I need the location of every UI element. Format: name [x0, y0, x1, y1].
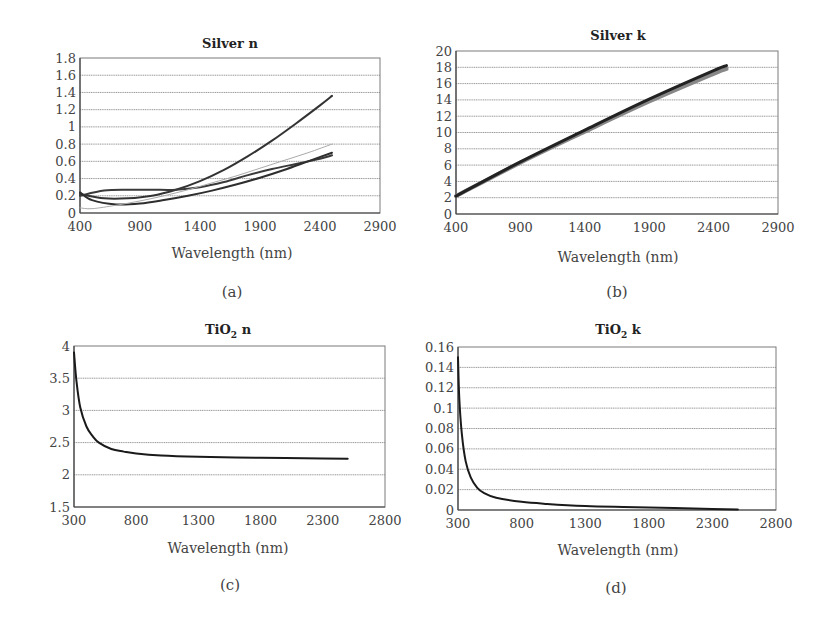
svg-text:0.06: 0.06	[425, 441, 454, 456]
caption-a: (a)	[202, 283, 262, 301]
x-axis-label-b: Wavelength (nm)	[518, 249, 718, 265]
svg-text:0.12: 0.12	[425, 380, 454, 395]
x-axis-label-d: Wavelength (nm)	[518, 542, 718, 558]
svg-text:1800: 1800	[632, 516, 665, 531]
chart-title-silver-n: Silver n	[130, 36, 330, 51]
chart-title-tio2-k: TiO2 k	[518, 322, 718, 340]
svg-text:0.04: 0.04	[425, 462, 454, 477]
svg-text:2300: 2300	[696, 516, 729, 531]
svg-text:0.14: 0.14	[425, 360, 454, 375]
svg-text:0.02: 0.02	[425, 482, 454, 497]
svg-text:300: 300	[446, 516, 471, 531]
svg-text:0.16: 0.16	[425, 340, 454, 355]
x-axis-label-a: Wavelength (nm)	[132, 245, 332, 261]
caption-c: (c)	[200, 576, 260, 594]
chart-title-silver-k: Silver k	[518, 28, 718, 43]
caption-b: (b)	[587, 283, 647, 301]
svg-text:800: 800	[509, 516, 534, 531]
svg-text:2800: 2800	[759, 516, 792, 531]
svg-text:0.08: 0.08	[425, 421, 454, 436]
chart-title-tio2-n: TiO2 n	[128, 322, 328, 340]
x-axis-label-c: Wavelength (nm)	[128, 540, 328, 556]
data-series-line	[458, 357, 738, 509]
svg-text:0.1: 0.1	[433, 401, 454, 416]
plot-area: 00.020.040.060.080.10.120.140.1630080013…	[0, 0, 835, 625]
caption-d: (d)	[586, 579, 646, 597]
svg-text:1300: 1300	[569, 516, 602, 531]
